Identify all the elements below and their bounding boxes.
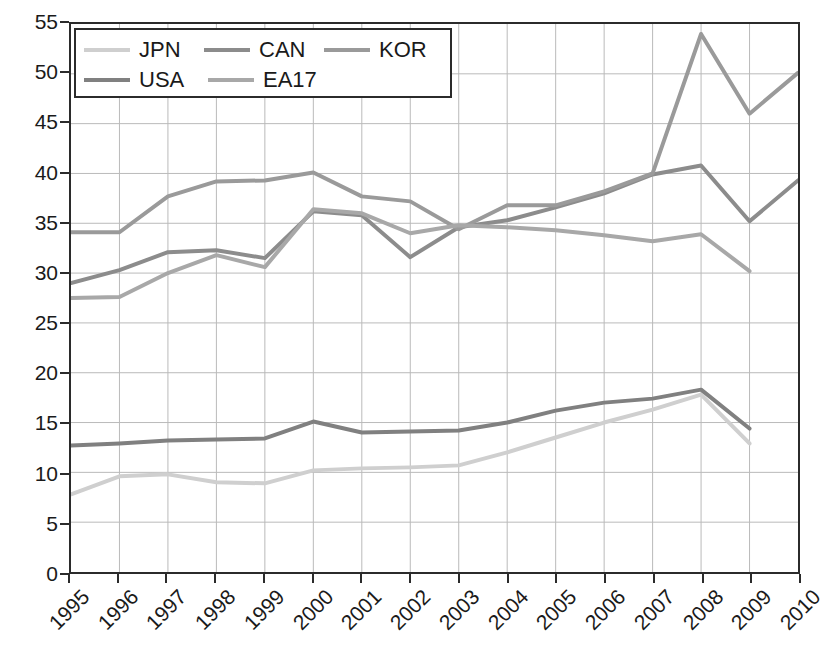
legend-label: KOR <box>379 39 427 61</box>
legend-item-kor: KOR <box>324 39 444 61</box>
y-tick-label: 50 <box>6 61 58 82</box>
y-tick-label: 35 <box>6 212 58 233</box>
legend-swatch-icon <box>84 78 130 82</box>
legend: JPNCANKORUSAEA17 <box>74 28 452 98</box>
x-tick-label: 1997 <box>142 585 190 633</box>
x-tick-label: 2008 <box>678 585 726 633</box>
x-tick-label: 2000 <box>289 585 337 633</box>
x-tick-mark <box>555 574 557 583</box>
y-tick-mark <box>60 372 69 374</box>
y-tick-label: 15 <box>6 412 58 433</box>
y-tick-mark <box>60 222 69 224</box>
legend-item-usa: USA <box>84 69 208 91</box>
plot-area <box>69 22 800 574</box>
x-tick-label: 2003 <box>435 585 483 633</box>
legend-swatch-icon <box>204 48 250 52</box>
x-tick-mark <box>117 574 119 583</box>
legend-row: JPNCANKOR <box>84 35 444 65</box>
legend-label: JPN <box>139 39 181 61</box>
x-tick-label: 2002 <box>386 585 434 633</box>
legend-item-ea17: EA17 <box>208 69 332 91</box>
y-tick-label: 20 <box>6 362 58 383</box>
y-tick-mark <box>60 422 69 424</box>
x-tick-mark <box>214 574 216 583</box>
x-tick-label: 2006 <box>581 585 629 633</box>
legend-label: CAN <box>259 39 305 61</box>
x-tick-label: 2004 <box>484 585 532 633</box>
y-tick-mark <box>60 71 69 73</box>
y-tick-label: 5 <box>6 513 58 534</box>
x-tick-mark <box>263 574 265 583</box>
x-tick-mark <box>750 574 752 583</box>
x-tick-label: 2001 <box>337 585 385 633</box>
x-tick-mark <box>458 574 460 583</box>
y-tick-mark <box>60 172 69 174</box>
legend-item-jpn: JPN <box>84 39 204 61</box>
y-tick-mark <box>60 523 69 525</box>
legend-swatch-icon <box>208 78 254 82</box>
x-tick-label: 2010 <box>776 585 824 633</box>
x-tick-mark <box>702 574 704 583</box>
x-tick-mark <box>604 574 606 583</box>
y-tick-mark <box>60 322 69 324</box>
y-axis: 0510152025303540455055 <box>6 0 58 647</box>
y-tick-label: 0 <box>6 563 58 584</box>
x-tick-mark <box>507 574 509 583</box>
x-tick-mark <box>360 574 362 583</box>
y-tick-label: 30 <box>6 262 58 283</box>
y-tick-mark <box>60 272 69 274</box>
x-tick-mark <box>165 574 167 583</box>
legend-row: USAEA17 <box>84 65 444 95</box>
gridlines <box>71 24 798 572</box>
y-tick-label: 10 <box>6 463 58 484</box>
y-tick-mark <box>60 473 69 475</box>
legend-label: EA17 <box>263 69 317 91</box>
legend-swatch-icon <box>324 48 370 52</box>
x-tick-label: 1996 <box>94 585 142 633</box>
y-tick-label: 55 <box>6 11 58 32</box>
x-tick-label: 2007 <box>630 585 678 633</box>
x-tick-label: 2005 <box>532 585 580 633</box>
x-tick-mark <box>312 574 314 583</box>
x-tick-mark <box>653 574 655 583</box>
x-tick-mark <box>799 574 801 583</box>
y-tick-label: 25 <box>6 312 58 333</box>
legend-swatch-icon <box>84 48 130 52</box>
legend-label: USA <box>139 69 184 91</box>
legend-item-can: CAN <box>204 39 324 61</box>
x-tick-mark <box>68 574 70 583</box>
y-tick-mark <box>60 21 69 23</box>
x-tick-label: 2009 <box>727 585 775 633</box>
y-tick-label: 40 <box>6 162 58 183</box>
y-tick-mark <box>60 121 69 123</box>
x-tick-mark <box>409 574 411 583</box>
x-tick-label: 1998 <box>191 585 239 633</box>
x-tick-label: 1999 <box>240 585 288 633</box>
y-tick-label: 45 <box>6 111 58 132</box>
